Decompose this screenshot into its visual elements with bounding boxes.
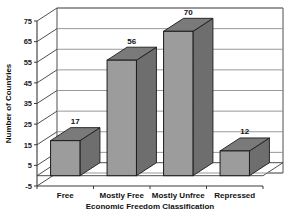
gridline-depth: [37, 8, 57, 21]
x-axis-category-label: Free: [57, 191, 74, 200]
y-axis-tick-label: 35: [24, 99, 32, 108]
chart-container: 756555453525155-517567012FreeMostly Free…: [0, 0, 299, 215]
bar-value-label: 17: [71, 117, 80, 126]
x-axis-category-label: Mostly Free: [100, 191, 145, 200]
bar-side-face: [136, 47, 156, 176]
y-axis-tick-label: 65: [24, 37, 32, 46]
y-axis-tick-label: -5: [25, 182, 32, 191]
y-axis-tick-label: 55: [24, 58, 32, 67]
y-axis-tick-label: 15: [24, 141, 32, 150]
bar-front-face: [107, 60, 136, 176]
x-axis-category-label: Mostly Unfree: [152, 191, 205, 200]
gridline-depth: [37, 91, 57, 104]
bar-front-face: [51, 141, 80, 176]
y-axis-tick-label: 45: [24, 79, 32, 88]
y-axis-tick-label: 75: [24, 17, 32, 26]
bar-value-label: 56: [127, 37, 136, 46]
bar-front-face: [220, 151, 249, 176]
y-axis-tick-label: 5: [28, 161, 32, 170]
bar-chart-3d: 756555453525155-517567012FreeMostly Free…: [0, 0, 299, 215]
gridline-depth: [37, 49, 57, 62]
bar-2: [164, 18, 213, 175]
x-axis-title: Economic Freedom Classification: [86, 202, 215, 211]
bar-1: [107, 47, 156, 176]
gridline-depth: [37, 111, 57, 124]
bar-front-face: [164, 31, 193, 175]
bar-value-label: 12: [240, 127, 249, 136]
x-axis-category-label: Repressed: [214, 191, 255, 200]
y-axis-tick-label: 25: [24, 120, 32, 129]
bar-side-face: [193, 18, 213, 175]
y-axis-title: Number of Countries: [4, 63, 13, 143]
gridline-depth: [37, 70, 57, 83]
bar-value-label: 70: [184, 8, 193, 17]
gridline-depth: [37, 29, 57, 42]
